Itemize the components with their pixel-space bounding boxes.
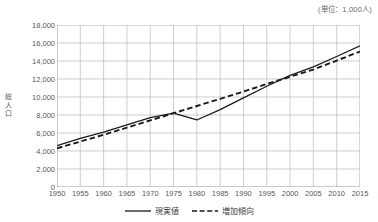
plot-svg [57,25,360,187]
x-axis-tick-labels: 1950195519601965197019751980198519901995… [57,189,360,203]
x-axis-tick-label: 1990 [235,189,252,198]
chart-legend: 現実値 増加傾向 [0,205,378,216]
y-axis-title: 総 人 口 [2,93,14,119]
y-axis-tick-label: 8,000 [36,111,55,120]
y-axis-tick-labels: 02,0004,0006,0008,00010,00012,00014,0001… [14,25,55,187]
x-axis-tick-label: 1965 [119,189,136,198]
x-axis-tick-label: 1980 [189,189,206,198]
legend-label-trend: 増加傾向 [222,205,254,216]
y-axis-tick-label: 12,000 [32,75,55,84]
plot-area [57,25,360,187]
x-axis-tick-label: 2015 [352,189,369,198]
x-axis-tick-label: 1955 [72,189,89,198]
legend-item-trend: 増加傾向 [192,205,254,216]
legend-label-actual: 現実値 [155,205,179,216]
unit-note: (単位：1,000人) [318,3,372,14]
legend-dashed-line-icon [192,207,218,215]
x-axis-tick-label: 1960 [95,189,112,198]
y-axis-tick-label: 6,000 [36,129,55,138]
x-axis-tick-label: 2005 [305,189,322,198]
legend-solid-line-icon [125,207,151,215]
x-axis-tick-label: 2010 [328,189,345,198]
x-axis-tick-label: 1950 [49,189,66,198]
x-axis-tick-label: 2000 [282,189,299,198]
x-axis-tick-label: 1985 [212,189,229,198]
legend-item-actual: 現実値 [125,205,179,216]
y-axis-tick-label: 18,000 [32,21,55,30]
population-line-chart: (単位：1,000人) 総 人 口 02,0004,0006,0008,0001… [0,0,378,222]
x-axis-tick-label: 1970 [142,189,159,198]
y-axis-tick-label: 16,000 [32,39,55,48]
y-axis-tick-label: 14,000 [32,57,55,66]
x-axis-tick-label: 1995 [258,189,275,198]
x-axis-tick-label: 1975 [165,189,182,198]
y-axis-tick-label: 10,000 [32,93,55,102]
y-axis-tick-label: 2,000 [36,165,55,174]
y-axis-tick-label: 4,000 [36,147,55,156]
